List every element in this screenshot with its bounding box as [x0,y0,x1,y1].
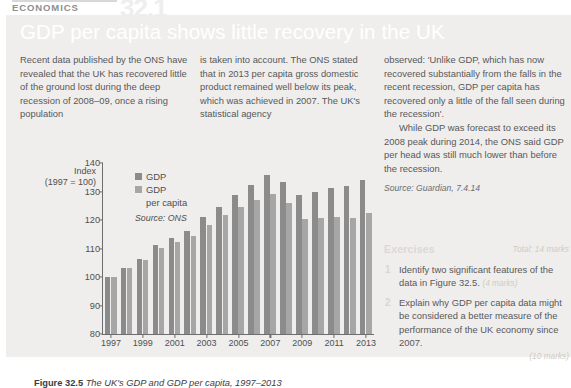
y-axis-tick-label: 120 [85,215,100,225]
x-axis-tick-mark [302,334,303,338]
chart-bar [121,268,127,334]
exercise-marks-2: (10 marks) [399,350,569,363]
chart-bar [286,203,292,334]
chart-bar [143,260,149,334]
chart-bar-group [153,245,165,334]
chart-bar [137,259,143,334]
x-axis-tick-label: 2009 [292,338,312,348]
chart-bar-group [105,277,117,334]
exercise-text-2: Explain why GDP per capita data might be… [399,297,562,348]
chart-bar-group [169,238,181,334]
exercise-item-2: 2 Explain why GDP per capita data might … [384,296,569,364]
chart-bar [191,236,197,334]
legend-label-gdp: GDP [146,171,166,182]
x-axis-tick-mark [142,334,143,338]
figure-chart: Index (1997 = 100) GDP GDP per capita [34,155,379,370]
x-axis-tick-label: 1999 [133,338,153,348]
article-col3-paragraph-1: observed: 'Unlike GDP, which has now rec… [384,53,566,121]
figure-caption: Figure 32.5 The UK's GDP and GDP per cap… [34,378,282,388]
chart-bar [264,175,270,334]
x-axis-tick-label: 1997 [101,338,121,348]
chart-bar [350,218,356,334]
chart-bar [159,248,165,334]
article-source: Source: Guardian, 7.4.14 [384,182,566,196]
chart-bar [296,195,302,334]
exercises-section: Exercises Total: 14 marks 1 Identify two… [384,243,569,364]
article-column-2: is taken into account. The ONS stated th… [200,53,372,121]
x-axis-tick-label: 2013 [356,338,376,348]
y-axis-tick-label: 140 [85,158,100,168]
y-axis-tick-mark [99,305,103,306]
chart-bar [184,231,190,334]
x-axis-tick-label: 2005 [228,338,248,348]
chart-bar-group [312,192,324,335]
chart-bar [111,277,117,334]
exercises-total-marks: Total: 14 marks [513,244,569,254]
y-axis-tick-mark [99,162,103,163]
article-col1-paragraph: Recent data published by the ONS have re… [20,53,192,121]
chart-bar [360,180,366,334]
chart-bar-group [344,186,356,334]
x-axis-tick-mark [334,334,335,338]
running-head-subject: ECONOMICS [12,2,79,13]
chart-plot-area: GDP GDP per capita Source: ONS 809010011… [102,163,374,335]
chart-bar [366,213,372,334]
legend-item-gdp: GDP [135,171,231,182]
chart-bar [153,245,159,334]
chart-bar [175,242,181,334]
chart-bar [248,185,254,334]
x-axis-tick-mark [270,334,271,338]
article-col3-paragraph-2: While GDP was forecast to exceed its 200… [384,121,566,175]
exercises-header: Exercises Total: 14 marks [384,243,569,258]
y-axis-tick-label: 130 [85,187,100,197]
chart-bar [344,186,350,334]
y-axis-tick-label: 100 [85,272,100,282]
chart-bar-group [296,195,308,334]
x-axis-tick-mark [110,334,111,338]
exercises-heading: Exercises [384,243,435,255]
legend-label-gdp-per-capita: GDP [146,184,166,195]
y-axis-tick-mark [99,276,103,277]
chart-bar [334,217,340,334]
exercise-number-1: 1 [385,263,391,276]
x-axis-tick-mark [206,334,207,338]
chart-bar [232,195,238,334]
chart-bar [312,192,318,335]
x-axis-tick-mark [365,334,366,338]
x-axis-tick-mark [174,334,175,338]
chart-bar [207,225,213,334]
running-head: ECONOMICS 32.1 [6,0,366,16]
article-column-3: observed: 'Unlike GDP, which has now rec… [384,53,566,196]
chart-bar [216,207,222,334]
x-axis-tick-label: 2007 [260,338,280,348]
chart-bar [270,194,276,334]
exercise-text-1: Identify two significant features of the… [399,264,553,288]
chart-bar [127,268,133,334]
y-axis-tick-mark [99,248,103,249]
y-axis-tick-mark [99,333,103,334]
chart-bar-group [184,231,196,334]
x-axis-tick-label: 2011 [324,338,343,348]
figure-caption-text: The UK's GDP and GDP per capita, 1997–20… [86,378,282,388]
chart-bar-group [121,268,133,334]
chart-bar [318,218,324,334]
x-axis-tick-label: 2001 [165,338,185,348]
chart-bar-group [248,185,260,334]
chart-bar [169,238,175,334]
legend-item-gdp-per-capita: GDP [135,184,231,195]
y-axis-tick-mark [99,219,103,220]
chart-bar-group [216,207,228,334]
chart-bar [105,277,111,334]
chart-bar-group [137,259,149,334]
y-axis-tick-mark [99,191,103,192]
chart-bar [223,215,229,334]
chart-bar [254,200,260,334]
chart-bar [302,219,308,334]
chart-bar-group [200,217,212,334]
chart-bar-group [264,175,276,334]
article-column-1: Recent data published by the ONS have re… [20,53,192,121]
article-panel: GDP per capita shows little recovery in … [6,15,571,357]
exercise-number-2: 2 [385,296,391,309]
article-col2-paragraph: is taken into account. The ONS stated th… [200,53,372,121]
chart-bar [280,182,286,334]
